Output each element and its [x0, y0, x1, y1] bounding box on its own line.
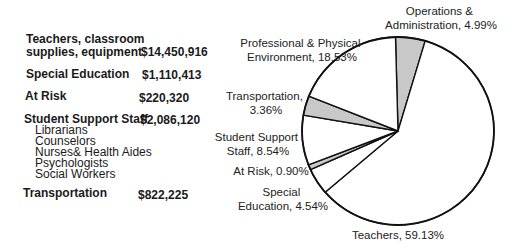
pie-chart: Operations & Administration, 4.99% Profe… — [0, 0, 513, 248]
label-sped: Special Education, 4.54% — [238, 186, 328, 212]
label-ops: Operations & Administration, 4.99% — [385, 5, 497, 31]
label-atrisk: At Risk, 0.90% — [233, 165, 308, 177]
pie-slices — [302, 37, 494, 225]
label-support: Student Support Staff, 8.54% — [215, 131, 301, 157]
label-transport: Transportation, 3.36% — [226, 90, 306, 116]
label-teachers: Teachers, 59.13% — [352, 229, 444, 241]
label-prof: Professional & Physical Environment, 18.… — [240, 37, 363, 63]
pie-svg: Operations & Administration, 4.99% Profe… — [0, 0, 513, 248]
